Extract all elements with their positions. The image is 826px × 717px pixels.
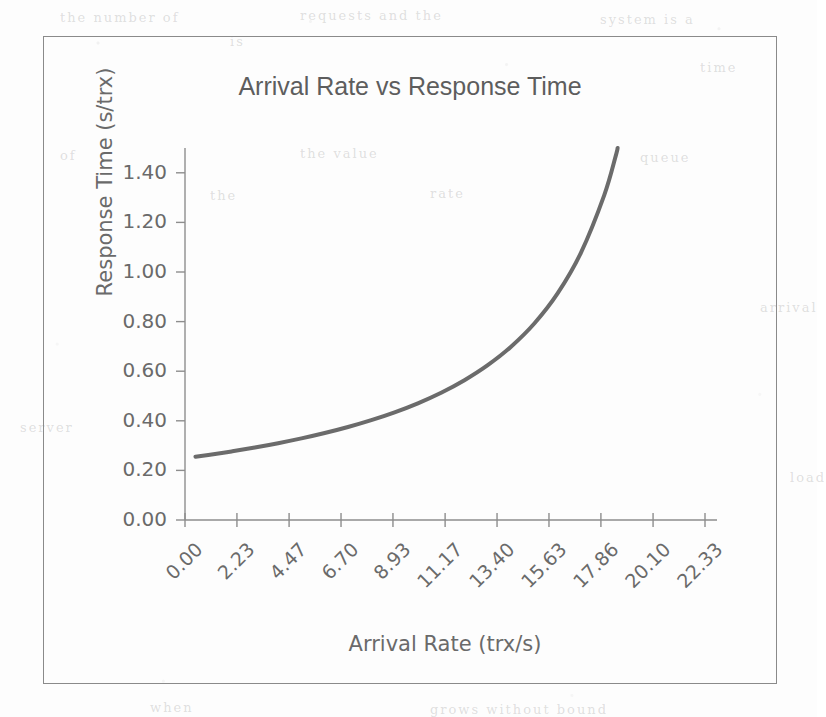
data-series: [195, 148, 617, 457]
axes: [176, 148, 717, 527]
response-time-curve: [195, 148, 617, 457]
